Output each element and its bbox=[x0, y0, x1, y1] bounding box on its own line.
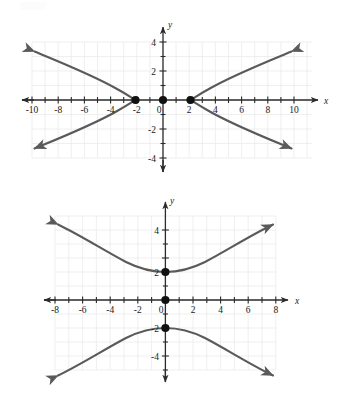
x-tick-label: -4 bbox=[107, 105, 115, 115]
vertex-point-upper bbox=[161, 268, 169, 276]
x-tick-label: -6 bbox=[80, 105, 88, 115]
vertex-point-lower bbox=[161, 324, 169, 332]
x-tick-label: -8 bbox=[54, 105, 62, 115]
x-axis-label: x bbox=[323, 96, 329, 106]
x-tick-label: -10 bbox=[26, 105, 39, 115]
axes bbox=[44, 202, 288, 382]
x-tick-label: 4 bbox=[213, 105, 218, 115]
x-tick-label: -4 bbox=[106, 305, 114, 315]
vertex-point-left bbox=[131, 96, 139, 104]
y-tick-label: -4 bbox=[151, 352, 159, 362]
x-axis-label: x bbox=[294, 296, 300, 306]
x-tick-label: 6 bbox=[246, 305, 251, 315]
x-tick-label: -8 bbox=[51, 305, 59, 315]
y-tick-label: -4 bbox=[148, 154, 156, 164]
x-tick-labels: -10 -8 -6 -4 -2 0 2 4 6 8 10 bbox=[26, 105, 299, 115]
horizontal-hyperbola-graph: -10 -8 -6 -4 -2 0 2 4 6 8 10 4 2 -2 -4 x… bbox=[0, 0, 345, 190]
origin-point bbox=[161, 296, 169, 304]
figure-2-canvas: -8 -6 -4 -2 0 2 4 6 8 4 2 -2 -4 x y bbox=[0, 190, 345, 398]
x-tick-label: 8 bbox=[265, 105, 270, 115]
origin-point bbox=[159, 96, 167, 104]
y-tick-label: -2 bbox=[148, 125, 156, 135]
y-tick-label: 2 bbox=[154, 268, 159, 278]
y-tick-label: -2 bbox=[151, 324, 159, 334]
x-tick-label: 2 bbox=[187, 105, 192, 115]
vertex-point-right bbox=[186, 96, 194, 104]
figure-1-canvas: -10 -8 -6 -4 -2 0 2 4 6 8 10 4 2 -2 -4 x… bbox=[0, 0, 345, 190]
x-tick-label: 2 bbox=[191, 305, 196, 315]
x-tick-label-origin: 0 bbox=[157, 105, 162, 115]
y-axis-label: y bbox=[169, 196, 175, 206]
y-tick-label: 4 bbox=[151, 38, 156, 48]
x-tick-label: -6 bbox=[79, 305, 87, 315]
x-tick-label: 8 bbox=[273, 305, 278, 315]
vertical-hyperbola-graph: -8 -6 -4 -2 0 2 4 6 8 4 2 -2 -4 x y bbox=[0, 190, 345, 398]
y-tick-label: 4 bbox=[154, 226, 159, 236]
y-tick-label: 2 bbox=[151, 67, 156, 77]
x-tick-label: -2 bbox=[133, 105, 141, 115]
axes bbox=[22, 27, 318, 172]
x-tick-label-origin: 0 bbox=[159, 305, 164, 315]
x-tick-label: -2 bbox=[134, 305, 142, 315]
x-tick-label: 6 bbox=[239, 105, 244, 115]
x-tick-label: 10 bbox=[289, 105, 299, 115]
y-tick-labels: 4 2 -2 -4 bbox=[151, 226, 159, 362]
y-axis-label: y bbox=[167, 20, 173, 30]
x-tick-label: 4 bbox=[218, 305, 223, 315]
